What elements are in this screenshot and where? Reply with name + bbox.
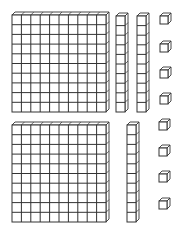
ten-rod xyxy=(116,13,128,112)
ten-rod xyxy=(137,13,149,112)
base-ten-blocks-diagram xyxy=(0,0,181,232)
unit-cube xyxy=(159,119,170,130)
bottom-group xyxy=(12,119,170,222)
unit-cube xyxy=(160,93,171,104)
blocks-drawing xyxy=(0,0,181,232)
unit-cube xyxy=(159,145,170,156)
unit-cube xyxy=(159,171,170,182)
hundred-flat xyxy=(12,12,109,112)
unit-cube xyxy=(160,13,171,24)
hundred-flat xyxy=(12,122,109,222)
unit-cube xyxy=(160,41,171,52)
top-group xyxy=(12,12,171,112)
ten-rod xyxy=(127,122,139,222)
unit-cube xyxy=(159,198,170,209)
unit-cube xyxy=(160,67,171,78)
